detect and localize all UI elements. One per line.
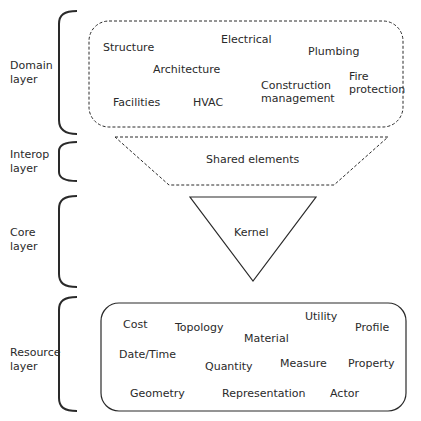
interop-bracket [59,142,77,181]
core-item-kernel: Kernel [234,226,269,239]
resource-item-profile: Profile [355,321,389,334]
resource-item-utility: Utility [305,310,337,323]
core-bracket [59,196,77,287]
domain-item-hvac: HVAC [193,96,223,109]
layer-label-line: layer [10,360,60,374]
layer-label-line: Core [10,226,38,240]
resource-bracket [59,297,77,411]
domain-item-architecture: Architecture [153,63,220,76]
domain-item-construction-management: Construction management [261,79,335,105]
resource-item-cost: Cost [123,318,147,331]
domain-layer-label: Domain layer [10,59,53,87]
interop-layer-label: Interop layer [10,148,49,176]
resource-item-representation: Representation [222,387,306,400]
resource-item-measure: Measure [280,357,327,370]
core-layer-label: Core layer [10,226,38,254]
domain-bracket [59,11,77,134]
resource-item-geometry: Geometry [130,387,185,400]
layer-label-line: Interop [10,148,49,162]
layer-label-line: Domain [10,59,53,73]
resource-item-material: Material [244,332,289,345]
layer-label-line: layer [10,240,38,254]
item-line: Fire [349,70,405,83]
item-line: Construction [261,79,335,92]
resource-item-quantity: Quantity [205,360,253,373]
domain-item-structure: Structure [103,41,154,54]
core-triangle [190,197,316,281]
resource-item-property: Property [348,357,395,370]
domain-item-fire-protection: Fire protection [349,70,405,96]
item-line: management [261,92,335,105]
domain-item-electrical: Electrical [221,33,272,46]
resource-item-datetime: Date/Time [119,348,176,361]
domain-item-facilities: Facilities [113,96,160,109]
layer-label-line: Resource [10,346,60,360]
interop-item-shared-elements: Shared elements [206,153,299,166]
resource-layer-label: Resource layer [10,346,60,374]
domain-item-plumbing: Plumbing [308,45,359,58]
item-line: protection [349,83,405,96]
layer-label-line: layer [10,162,49,176]
layer-label-line: layer [10,73,53,87]
resource-item-actor: Actor [330,387,359,400]
resource-item-topology: Topology [175,321,224,334]
